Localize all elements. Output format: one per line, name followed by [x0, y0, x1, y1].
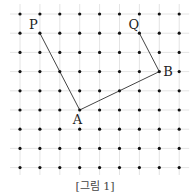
lattice-dot — [158, 12, 161, 15]
lattice-dot — [138, 128, 141, 131]
grid-diagram: PQBA — [0, 0, 190, 175]
lattice-dot — [18, 166, 21, 169]
lattice-dot — [38, 32, 41, 35]
lattice-dot — [178, 70, 181, 73]
lattice-dot — [38, 51, 41, 54]
lattice-dot — [18, 147, 21, 150]
lattice-dot — [118, 12, 121, 15]
lattice-dot — [138, 89, 141, 92]
lattice-dot — [118, 147, 121, 150]
lattice-dot — [18, 89, 21, 92]
lattice-dot — [38, 128, 41, 131]
figure-caption: [그림 1] — [0, 177, 190, 193]
lattice-dot — [138, 147, 141, 150]
lattice-dot — [38, 166, 41, 169]
lattice-dot — [58, 12, 61, 15]
lattice-dot — [158, 89, 161, 92]
point-label-q: Q — [128, 17, 139, 32]
lattice-dot — [78, 128, 81, 131]
lattice-dot — [178, 12, 181, 15]
lattice-dot — [78, 89, 81, 92]
lattice-dot — [98, 108, 101, 111]
lattice-dot — [58, 147, 61, 150]
lattice-dot — [158, 166, 161, 169]
lattice-dot — [178, 147, 181, 150]
lattice-dot — [138, 108, 141, 111]
lattice-dot — [98, 32, 101, 35]
lattice-dot — [158, 108, 161, 111]
lattice-dot — [58, 108, 61, 111]
lattice-dot — [38, 89, 41, 92]
lattice-dot — [18, 32, 21, 35]
lattice-dot — [18, 128, 21, 131]
lattice-dot — [158, 147, 161, 150]
lattice-dot — [118, 89, 121, 92]
lattice-dot — [158, 70, 161, 73]
lattice-dot — [118, 128, 121, 131]
lattice-dot — [38, 108, 41, 111]
lattice-dot — [138, 51, 141, 54]
lattice-dot — [178, 166, 181, 169]
lattice-dot — [118, 32, 121, 35]
lattice-dot — [78, 12, 81, 15]
lattice-dot — [58, 70, 61, 73]
lattice-dot — [38, 70, 41, 73]
lattice-dot — [78, 51, 81, 54]
lattice-dot — [58, 32, 61, 35]
lattice-dot — [18, 108, 21, 111]
point-label-a: A — [72, 112, 83, 127]
lattice-dot — [98, 12, 101, 15]
lattice-dot — [78, 147, 81, 150]
lattice-dot — [38, 147, 41, 150]
lattice-dot — [158, 51, 161, 54]
lattice-dot — [178, 51, 181, 54]
lattice-dot — [98, 89, 101, 92]
lattice-dot — [98, 147, 101, 150]
lattice-dot — [78, 70, 81, 73]
lattice-dot — [178, 89, 181, 92]
lattice-dot — [118, 166, 121, 169]
lattice-dot — [158, 128, 161, 131]
lattice-dot — [98, 51, 101, 54]
lattice-dot — [18, 70, 21, 73]
lattice-dot — [78, 166, 81, 169]
lattice-dot — [98, 70, 101, 73]
point-label-p: P — [29, 17, 38, 32]
lattice-dot — [178, 108, 181, 111]
lattice-dot — [118, 51, 121, 54]
lattice-dot — [18, 51, 21, 54]
lattice-dot — [158, 32, 161, 35]
lattice-dot — [98, 128, 101, 131]
lattice-dot — [178, 32, 181, 35]
lattice-dot — [58, 51, 61, 54]
lattice-dot — [138, 12, 141, 15]
lattice-dot — [118, 108, 121, 111]
lattice-dot — [138, 70, 141, 73]
lattice-dot — [78, 32, 81, 35]
lattice-dot — [58, 128, 61, 131]
lattice-dot — [178, 128, 181, 131]
lattice-dot — [118, 70, 121, 73]
lattice-dot — [58, 89, 61, 92]
lattice-dot — [58, 166, 61, 169]
lattice-dot — [98, 166, 101, 169]
lattice-dot — [38, 12, 41, 15]
point-label-b: B — [163, 64, 173, 79]
lattice-dot — [18, 12, 21, 15]
lattice-dot — [138, 166, 141, 169]
